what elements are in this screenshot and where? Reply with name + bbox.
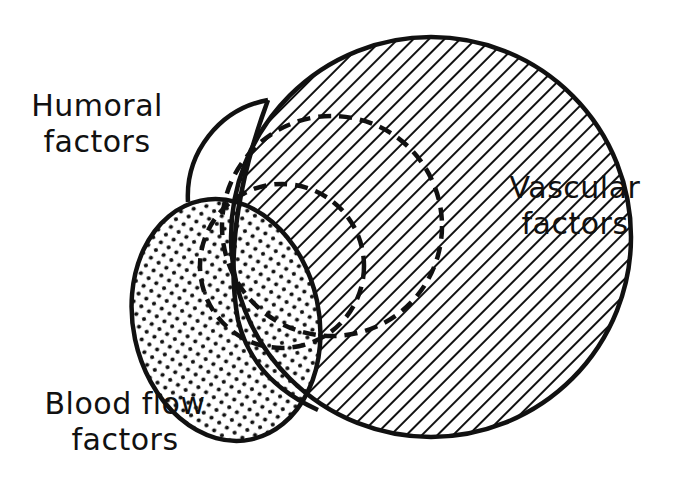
vascular-factors-label: Vascular factors xyxy=(500,170,650,242)
vascular-label-line2: factors xyxy=(500,206,650,242)
humoral-label-line1: Humoral xyxy=(22,88,172,124)
blood-flow-label-line1: Blood flow xyxy=(30,386,220,422)
humoral-label-line2: factors xyxy=(22,124,172,160)
vascular-label-line1: Vascular xyxy=(500,170,650,206)
blood-flow-label-line2: factors xyxy=(30,422,220,458)
humoral-factors-label: Humoral factors xyxy=(22,88,172,160)
blood-flow-factors-label: Blood flow factors xyxy=(30,386,220,458)
